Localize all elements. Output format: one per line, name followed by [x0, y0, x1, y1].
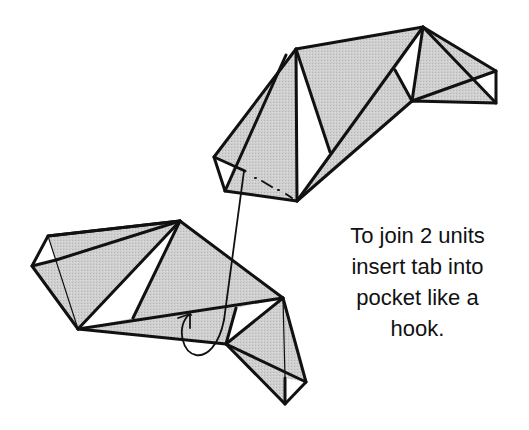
caption-line-1: To join 2 units — [310, 220, 525, 251]
caption-line-2: insert tab into — [310, 251, 525, 282]
instruction-caption: To join 2 units insert tab into pocket l… — [310, 220, 525, 344]
origami-diagram — [0, 0, 529, 430]
caption-line-4: hook. — [310, 313, 525, 344]
caption-line-3: pocket like a — [310, 282, 525, 313]
upper-unit — [214, 27, 496, 201]
upper-unit-body — [214, 27, 496, 201]
